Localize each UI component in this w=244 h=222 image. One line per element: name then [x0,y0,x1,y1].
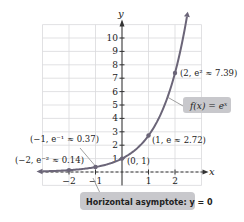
y-tick-label: 5 [112,100,118,110]
y-axis-label: y [117,8,124,19]
data-point [120,156,124,160]
y-tick-label: 9 [112,46,118,56]
x-tick-label: −1 [89,176,102,186]
point-label-1: (1, e ≈ 2.72) [152,135,206,145]
y-tick-label: 3 [112,127,118,137]
point-label-0: (0, 1) [127,156,150,166]
exponential-chart: −2−11212345678910 y x f(x) = eˣ Horizont… [0,0,244,222]
y-tick-label: 7 [112,73,118,83]
data-point [67,168,71,172]
function-label: f(x) = eˣ [189,101,228,111]
data-point [173,71,177,75]
x-tick-label: 2 [172,176,178,186]
y-tick-label: 2 [112,140,118,150]
x-tick-label: 1 [146,176,152,186]
x-tick-label: −2 [62,176,75,186]
y-tick-label: 6 [112,87,118,97]
y-axis-arrow [120,20,125,27]
x-axis-label: x [209,166,215,177]
point-label-neg1: (−1, e⁻¹ ≈ 0.37) [30,134,99,144]
y-tick-label: 10 [107,33,119,43]
y-tick-label: 4 [112,113,118,123]
x-axis-arrow [203,170,209,175]
curve-arrow-left [37,169,43,174]
data-point [93,165,97,169]
asymptote-label: Horizontal asymptote: y = 0 [86,198,213,207]
y-tick-label: 8 [112,60,118,70]
point-label-neg2: (−2, e⁻² ≈ 0.14) [15,155,84,165]
point-label-2: (2, e² ≈ 7.39) [180,68,237,78]
data-point [146,133,150,137]
curve-arrow-top [184,12,190,17]
